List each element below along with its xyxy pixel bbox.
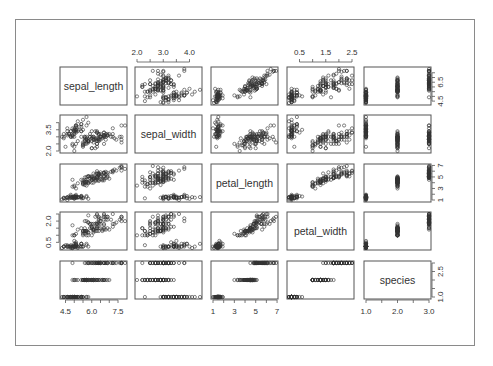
scatter-panel-petal_length-vs-sepal_width [135,164,202,202]
data-point [188,87,191,90]
diagonal-panel-sepal_width: sepal_width [135,115,202,153]
data-point [322,172,325,175]
data-point [350,74,353,77]
data-point [149,83,152,86]
data-point [123,124,126,127]
data-point [76,120,79,123]
data-point [71,178,74,181]
data-point [348,87,351,90]
data-point [301,128,304,131]
data-point [236,234,239,237]
data-point [239,229,242,232]
data-point [211,99,214,102]
data-point [76,182,79,185]
scatter-panel-petal_width-vs-sepal_width [135,212,202,250]
data-point [167,86,170,89]
data-point [261,228,264,231]
tick-label: 3.0 [158,48,170,57]
top-axis-sepal_width: 2.03.04.0 [131,48,195,62]
data-point [350,127,353,130]
data-point [74,142,77,145]
data-point [272,124,275,127]
data-point [123,167,126,170]
data-point [175,239,178,242]
data-point [80,135,83,138]
tick-label: 0.5 [44,236,53,248]
data-point [90,130,93,133]
data-point [324,91,327,94]
data-point [329,96,332,99]
variable-label: petal_length [216,177,273,189]
data-point [337,124,340,127]
tick-label: 2.5 [436,265,445,277]
data-point [236,278,239,281]
scatter-panel-sepal_width-vs-petal_length [211,115,278,153]
variable-label: sepal_width [141,128,197,140]
data-point [233,278,236,281]
data-point [151,164,154,167]
data-point [151,69,154,72]
tick-label: 4.0 [184,48,196,57]
data-point [149,187,152,190]
diagonal-panel-species: species [364,261,431,299]
tick-label: 1 [211,307,216,316]
data-point [85,124,88,127]
tick-label: 2.5 [346,48,358,57]
scatter-panel-species-vs-sepal_width [135,261,202,299]
data-point [111,127,114,130]
data-point [177,212,180,215]
data-point [249,261,252,264]
data-point [272,138,275,141]
data-point [427,96,430,99]
data-point [350,131,353,134]
data-point [269,124,272,127]
data-point [135,95,138,98]
tick-label: 4.5 [60,307,72,316]
data-point [135,234,138,237]
scatter-panel-petal_width-vs-petal_length [211,212,278,250]
data-point [211,127,214,130]
data-point [141,261,144,264]
scatter-panel-species-vs-petal_width [287,261,354,299]
data-point [254,147,257,150]
data-point [293,145,296,148]
tick-label: 7 [436,163,445,168]
tick-label: 3.5 [44,124,53,136]
data-point [183,88,186,91]
tick-label: 1 [436,197,445,202]
data-point [73,149,76,152]
data-point [295,115,298,118]
right-axis-petal_length: 1357 [432,163,445,203]
data-point [156,166,159,169]
data-point [151,172,154,175]
data-point [364,145,367,148]
scatter-panel-sepal_width-vs-sepal_length [60,115,127,153]
panel-box [135,261,202,299]
data-point [337,67,340,70]
data-point [327,74,330,77]
data-point [239,137,242,140]
data-point [238,149,241,152]
scatter-panel-sepal_length-vs-petal_width [287,67,354,105]
variable-label: species [380,274,416,286]
data-point [324,147,327,150]
data-point [193,90,196,93]
scatter-panel-species-vs-petal_length [211,261,278,299]
tick-label: 1.5 [320,48,332,57]
diagonal-panel-petal_length: petal_length [211,164,278,202]
data-point [345,164,348,167]
data-point [198,295,201,298]
tick-label: 2.0 [392,307,404,316]
data-point [143,244,146,247]
data-point [343,124,346,127]
tick-label: 5 [253,307,258,316]
scatter-panel-sepal_width-vs-species [364,115,431,153]
data-point [198,242,201,245]
tick-label: 3.0 [423,307,435,316]
variable-label: petal_width [294,225,347,237]
data-point [198,196,201,199]
scatter-panel-species-vs-sepal_length [60,261,127,299]
panel-box [287,115,354,153]
scatter-panel-petal_length-vs-species [364,164,431,202]
data-point [135,278,138,281]
